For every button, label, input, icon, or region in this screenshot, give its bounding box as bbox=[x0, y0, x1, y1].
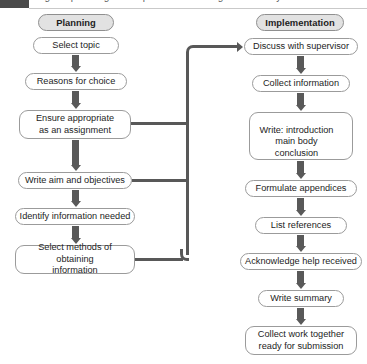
node-identify-information: Identify information needed bbox=[15, 208, 135, 225]
arrow-head-icon bbox=[71, 201, 81, 207]
arrow-head-icon bbox=[296, 68, 306, 74]
column-header-implementation: Implementation bbox=[256, 14, 344, 31]
arrow-head-icon bbox=[296, 319, 306, 325]
arrow-head-icon bbox=[296, 173, 306, 179]
arrow-head-icon bbox=[296, 210, 306, 216]
arrow-head-icon bbox=[296, 283, 306, 289]
arrow-head-icon bbox=[237, 42, 243, 52]
node-ensure-appropriate: Ensure appropriate as an assignment bbox=[19, 110, 131, 139]
connector-trunk bbox=[186, 53, 189, 255]
arrow-shaft bbox=[72, 140, 79, 166]
column-header-planning: Planning bbox=[38, 14, 114, 31]
node-discuss-with-supervisor: Discuss with supervisor bbox=[244, 38, 358, 55]
node-collect-information: Collect information bbox=[252, 75, 350, 92]
node-list-references: List references bbox=[255, 217, 347, 234]
node-acknowledge-help: Acknowledge help received bbox=[240, 253, 362, 270]
node-select-methods: Select methods of obtaining information bbox=[15, 245, 135, 274]
arrow-head-icon bbox=[71, 103, 81, 109]
node-collect-work-together: Collect work together ready for submissi… bbox=[245, 326, 357, 355]
node-write-sections: Write: introduction main body conclusion bbox=[249, 112, 353, 160]
node-write-aim-objectives: Write aim and objectives bbox=[18, 172, 132, 189]
node-select-topic: Select topic bbox=[33, 37, 119, 54]
connector-aim-to-trunk bbox=[132, 179, 188, 182]
flowchart-page: Figure: planning and implementation stag… bbox=[0, 0, 367, 364]
node-reasons-for-choice: Reasons for choice bbox=[25, 73, 127, 90]
connector-ensure-to-trunk bbox=[131, 122, 188, 125]
flowchart-canvas: Planning Select topic Reasons for choice… bbox=[0, 9, 367, 364]
caption-strip: Figure: planning and implementation stag… bbox=[0, 0, 367, 9]
node-write-summary: Write summary bbox=[258, 290, 344, 307]
connector-trunk-to-discuss bbox=[195, 45, 238, 48]
arrow-head-icon bbox=[296, 105, 306, 111]
connector-methods-to-trunk bbox=[135, 258, 183, 261]
arrow-head-icon bbox=[71, 165, 81, 171]
arrow-head-icon bbox=[71, 66, 81, 72]
caption-tab bbox=[0, 0, 29, 8]
caption-text: Figure: planning and implementation stag… bbox=[36, 0, 281, 2]
node-formulate-appendices: Formulate appendices bbox=[245, 180, 357, 197]
arrow-head-icon bbox=[296, 246, 306, 252]
